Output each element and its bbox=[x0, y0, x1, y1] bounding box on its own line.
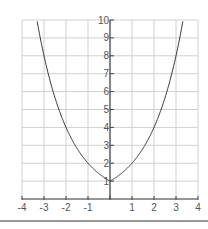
y-tick-label: 2 bbox=[103, 158, 109, 169]
y-tick-label: 3 bbox=[103, 140, 109, 151]
x-tick-label: 4 bbox=[195, 202, 201, 213]
y-tick-label: 9 bbox=[103, 32, 109, 43]
x-tick-label: 2 bbox=[151, 202, 157, 213]
y-tick-label: 10 bbox=[98, 15, 110, 26]
x-tick-label: -1 bbox=[84, 202, 93, 213]
y-tick-label: 8 bbox=[103, 50, 109, 61]
x-tick-label: -2 bbox=[62, 202, 71, 213]
y-tick-label: 5 bbox=[103, 104, 109, 115]
x-tick-label: -4 bbox=[18, 202, 27, 213]
x-tick-label: -3 bbox=[40, 202, 49, 213]
x-tick-label: 1 bbox=[129, 202, 135, 213]
x-tick-label: 3 bbox=[173, 202, 179, 213]
y-tick-label: 6 bbox=[103, 86, 109, 97]
y-tick-labels: 12345678910 bbox=[98, 15, 110, 187]
x-tick-labels: -4-3-2-11234 bbox=[18, 202, 202, 213]
function-plot: -4-3-2-11234 12345678910 bbox=[0, 0, 208, 229]
y-tick-label: 7 bbox=[103, 68, 109, 79]
y-tick-label: 4 bbox=[103, 122, 109, 133]
